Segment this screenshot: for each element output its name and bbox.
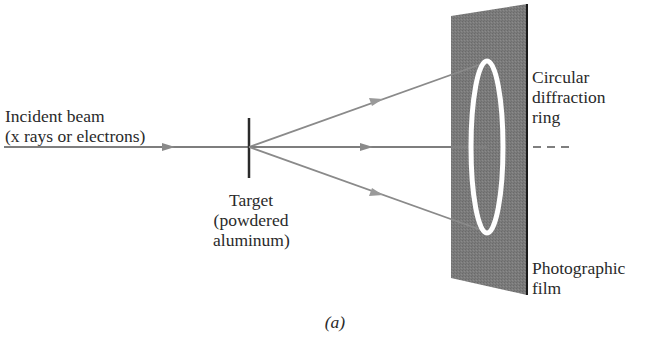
arrow-icon bbox=[360, 143, 373, 151]
arrow-icon bbox=[162, 143, 175, 151]
film-label-line2: film bbox=[532, 278, 625, 298]
ring-label-line1: Circular bbox=[532, 67, 606, 87]
photographic-film bbox=[451, 4, 527, 295]
ring-label: Circular diffraction ring bbox=[532, 67, 606, 127]
target-label-line1: Target bbox=[213, 190, 289, 210]
arrow-icon bbox=[369, 98, 383, 106]
ring-label-line2: diffraction bbox=[532, 87, 606, 107]
target-label-line2: (powdered bbox=[213, 210, 289, 230]
target-label: Target (powdered aluminum) bbox=[213, 190, 289, 250]
incident-beam-label-line1: Incident beam bbox=[5, 106, 145, 126]
figure-caption: (a) bbox=[310, 312, 360, 332]
incident-beam-label-line2: (x rays or electrons) bbox=[5, 126, 145, 146]
target-label-line3: aluminum) bbox=[213, 230, 289, 250]
film-label: Photographic film bbox=[532, 258, 625, 298]
incident-beam-label: Incident beam (x rays or electrons) bbox=[5, 106, 145, 146]
film-label-line1: Photographic bbox=[532, 258, 625, 278]
ring-label-line3: ring bbox=[532, 107, 606, 127]
arrow-icon bbox=[369, 188, 383, 196]
